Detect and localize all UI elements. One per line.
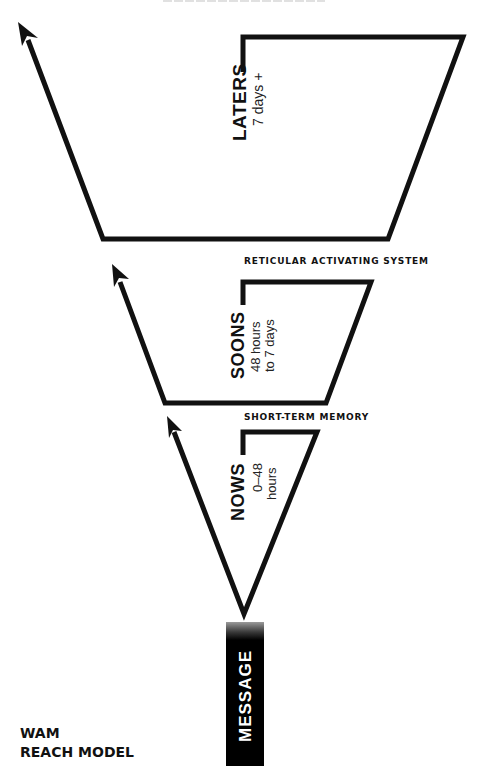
stage-range-nows-line1: 0–48 [251, 463, 265, 492]
stage-name-nows: NOWS [228, 463, 249, 521]
message-label: MESSAGE [236, 650, 256, 742]
threshold-reticular-activating-system: RETICULAR ACTIVATING SYSTEM [244, 256, 429, 266]
stage-range-laters: 7 days + [251, 73, 266, 126]
wam-reach-model-diagram: LATERS 7 days + RETICULAR ACTIVATING SYS… [0, 0, 482, 775]
model-title: WAM REACH MODEL [20, 724, 134, 762]
model-title-line2: REACH MODEL [20, 743, 134, 762]
stage-range-soons-line1: 48 hours [249, 321, 263, 372]
model-title-line1: WAM [20, 724, 134, 743]
stage-range-nows-line2: hours [265, 467, 279, 500]
stage-name-soons: SOONS [228, 311, 249, 379]
stage-name-laters: LATERS [229, 63, 251, 141]
stage-range-soons-line2: to 7 days [263, 319, 277, 372]
threshold-short-term-memory: SHORT-TERM MEMORY [244, 412, 369, 422]
